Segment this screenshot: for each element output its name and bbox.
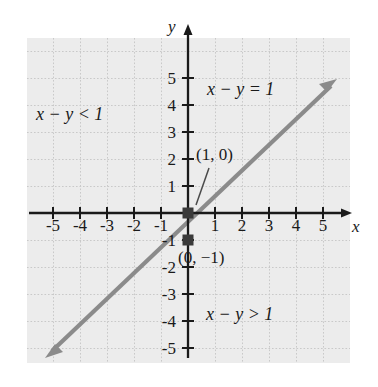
x-tick-label--3: -3 (95, 217, 119, 234)
y-tick-label--3: -3 (145, 286, 176, 303)
x-axis-label: x (352, 218, 360, 235)
point-marker-1-0 (183, 208, 194, 219)
x-tick-label-4: 4 (284, 217, 308, 234)
graph-overlay (0, 0, 378, 387)
x-tick-label--2: -2 (122, 217, 146, 234)
annotation-region-below-right: x − y > 1 (206, 305, 273, 323)
y-tick-label--1: -1 (145, 232, 176, 249)
y-axis-arrowhead (184, 24, 193, 35)
annotation-line-equation: x − y = 1 (207, 80, 274, 98)
point-1-leader-line (196, 168, 209, 205)
y-tick-label-5: 5 (150, 70, 176, 87)
y-tick-label--5: -5 (145, 340, 176, 357)
y-tick-label-1: 1 (150, 178, 176, 195)
x-tick-label-3: 3 (257, 217, 281, 234)
y-tick-label-2: 2 (150, 151, 176, 168)
x-tick-label--5: -5 (41, 217, 65, 234)
x-tick-label-2: 2 (230, 217, 254, 234)
point-marker-0-neg1 (183, 235, 194, 246)
y-tick-label--4: -4 (145, 313, 176, 330)
x-tick-label-5: 5 (311, 217, 335, 234)
y-tick-label-3: 3 (150, 124, 176, 141)
annotation-region-above-left: x − y < 1 (36, 105, 103, 123)
x-axis-arrowhead (341, 209, 352, 218)
y-tick-label-4: 4 (150, 97, 176, 114)
x-tick-label-1: 1 (203, 217, 227, 234)
y-axis-label: y (168, 18, 176, 35)
graph-figure: y x -5 -4 -3 -2 -1 1 2 3 4 5 5 4 3 2 1 -… (0, 0, 378, 387)
y-tick-label--2: -2 (145, 259, 176, 276)
point-label-1-0: (1, 0) (196, 146, 233, 163)
point-label-0-neg1: (0, −1) (178, 249, 224, 266)
x-tick-label--4: -4 (68, 217, 92, 234)
